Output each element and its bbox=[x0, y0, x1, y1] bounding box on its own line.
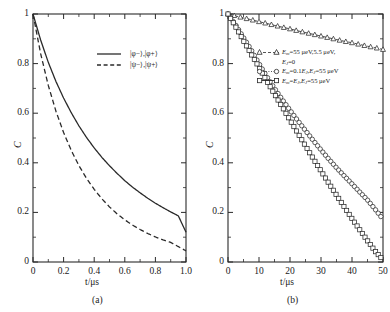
ytick-label: 0.4 bbox=[198, 157, 224, 167]
ytick-label: 0.6 bbox=[198, 107, 224, 117]
legend-label: |ψ−⟩,|ψ+⟩ bbox=[130, 60, 158, 70]
xtick-label: 40 bbox=[338, 266, 366, 276]
legend-label-line1: Em=0.1EJ,EJ=55 μeV bbox=[282, 67, 339, 76]
ytick-label: 0.8 bbox=[3, 58, 29, 68]
panel-a: 00.20.40.60.81.0 00.20.40.60.81 C t/μs (… bbox=[0, 0, 195, 312]
legend-item-continuation: EJ=0 bbox=[257, 58, 339, 68]
ytick-label: 0.6 bbox=[3, 107, 29, 117]
xtick-label: 20 bbox=[276, 266, 304, 276]
ytick-label: 0.8 bbox=[198, 58, 224, 68]
panel-b-legend: Em=55 μeV,5.5 μeV, EJ=0 Em=0.1EJ,EJ=55 μ… bbox=[257, 48, 339, 86]
panel-a-caption: (a) bbox=[92, 295, 103, 305]
legend-label-line1: Em=55 μeV,5.5 μeV, bbox=[282, 48, 335, 57]
ytick-label: 1 bbox=[3, 8, 29, 18]
panel-b-caption: (b) bbox=[287, 295, 298, 305]
legend-item: |φ−⟩,|φ+⟩ bbox=[95, 48, 158, 59]
ytick-label: 0.2 bbox=[3, 206, 29, 216]
figure-container: 00.20.40.60.81.0 00.20.40.60.81 C t/μs (… bbox=[0, 0, 390, 312]
legend-label: |φ−⟩,|φ+⟩ bbox=[130, 49, 158, 59]
panel-a-ylabel: C bbox=[12, 141, 23, 148]
legend-label-line1: Em=EJ,EJ=55 μeV bbox=[282, 77, 330, 86]
xtick-label: 30 bbox=[307, 266, 335, 276]
legend-item: Em=EJ,EJ=55 μeV bbox=[257, 77, 339, 87]
ytick-label: 0.2 bbox=[198, 206, 224, 216]
xtick-label: 0.4 bbox=[80, 266, 108, 276]
panel-b-xlabel: t/μs bbox=[280, 277, 294, 287]
xtick-label: 0.2 bbox=[50, 266, 78, 276]
panel-b-ylabel: C bbox=[204, 141, 215, 148]
ytick-label: 0 bbox=[3, 256, 29, 266]
ytick-label: 0.4 bbox=[3, 157, 29, 167]
xtick-label: 0.8 bbox=[141, 266, 169, 276]
legend-item: |ψ−⟩,|ψ+⟩ bbox=[95, 59, 158, 70]
markers-circle bbox=[226, 12, 383, 219]
legend-marker-circle bbox=[257, 67, 280, 77]
xtick-label: 0 bbox=[19, 266, 47, 276]
legend-marker-square bbox=[257, 76, 280, 86]
curve-solid bbox=[33, 14, 186, 232]
panel-b: 01020304050 00.20.40.60.81 C t/μs (b) Em… bbox=[195, 0, 390, 312]
legend-line-dashed bbox=[95, 60, 127, 70]
legend-item: Em=55 μeV,5.5 μeV, bbox=[257, 48, 339, 58]
ytick-label: 0 bbox=[198, 256, 224, 266]
legend-line-solid bbox=[95, 49, 127, 59]
legend-marker-triangle bbox=[257, 48, 280, 58]
panel-a-legend: |φ−⟩,|φ+⟩ |ψ−⟩,|ψ+⟩ bbox=[95, 48, 158, 70]
legend-item: Em=0.1EJ,EJ=55 μeV bbox=[257, 67, 339, 77]
xtick-label: 0.6 bbox=[111, 266, 139, 276]
xtick-label: 10 bbox=[245, 266, 273, 276]
xtick-label: 50 bbox=[369, 266, 390, 276]
legend-label-line2: EJ=0 bbox=[282, 58, 295, 67]
ytick-label: 1 bbox=[198, 8, 224, 18]
xtick-label: 0 bbox=[214, 266, 242, 276]
panel-a-xlabel: t/μs bbox=[85, 277, 99, 287]
